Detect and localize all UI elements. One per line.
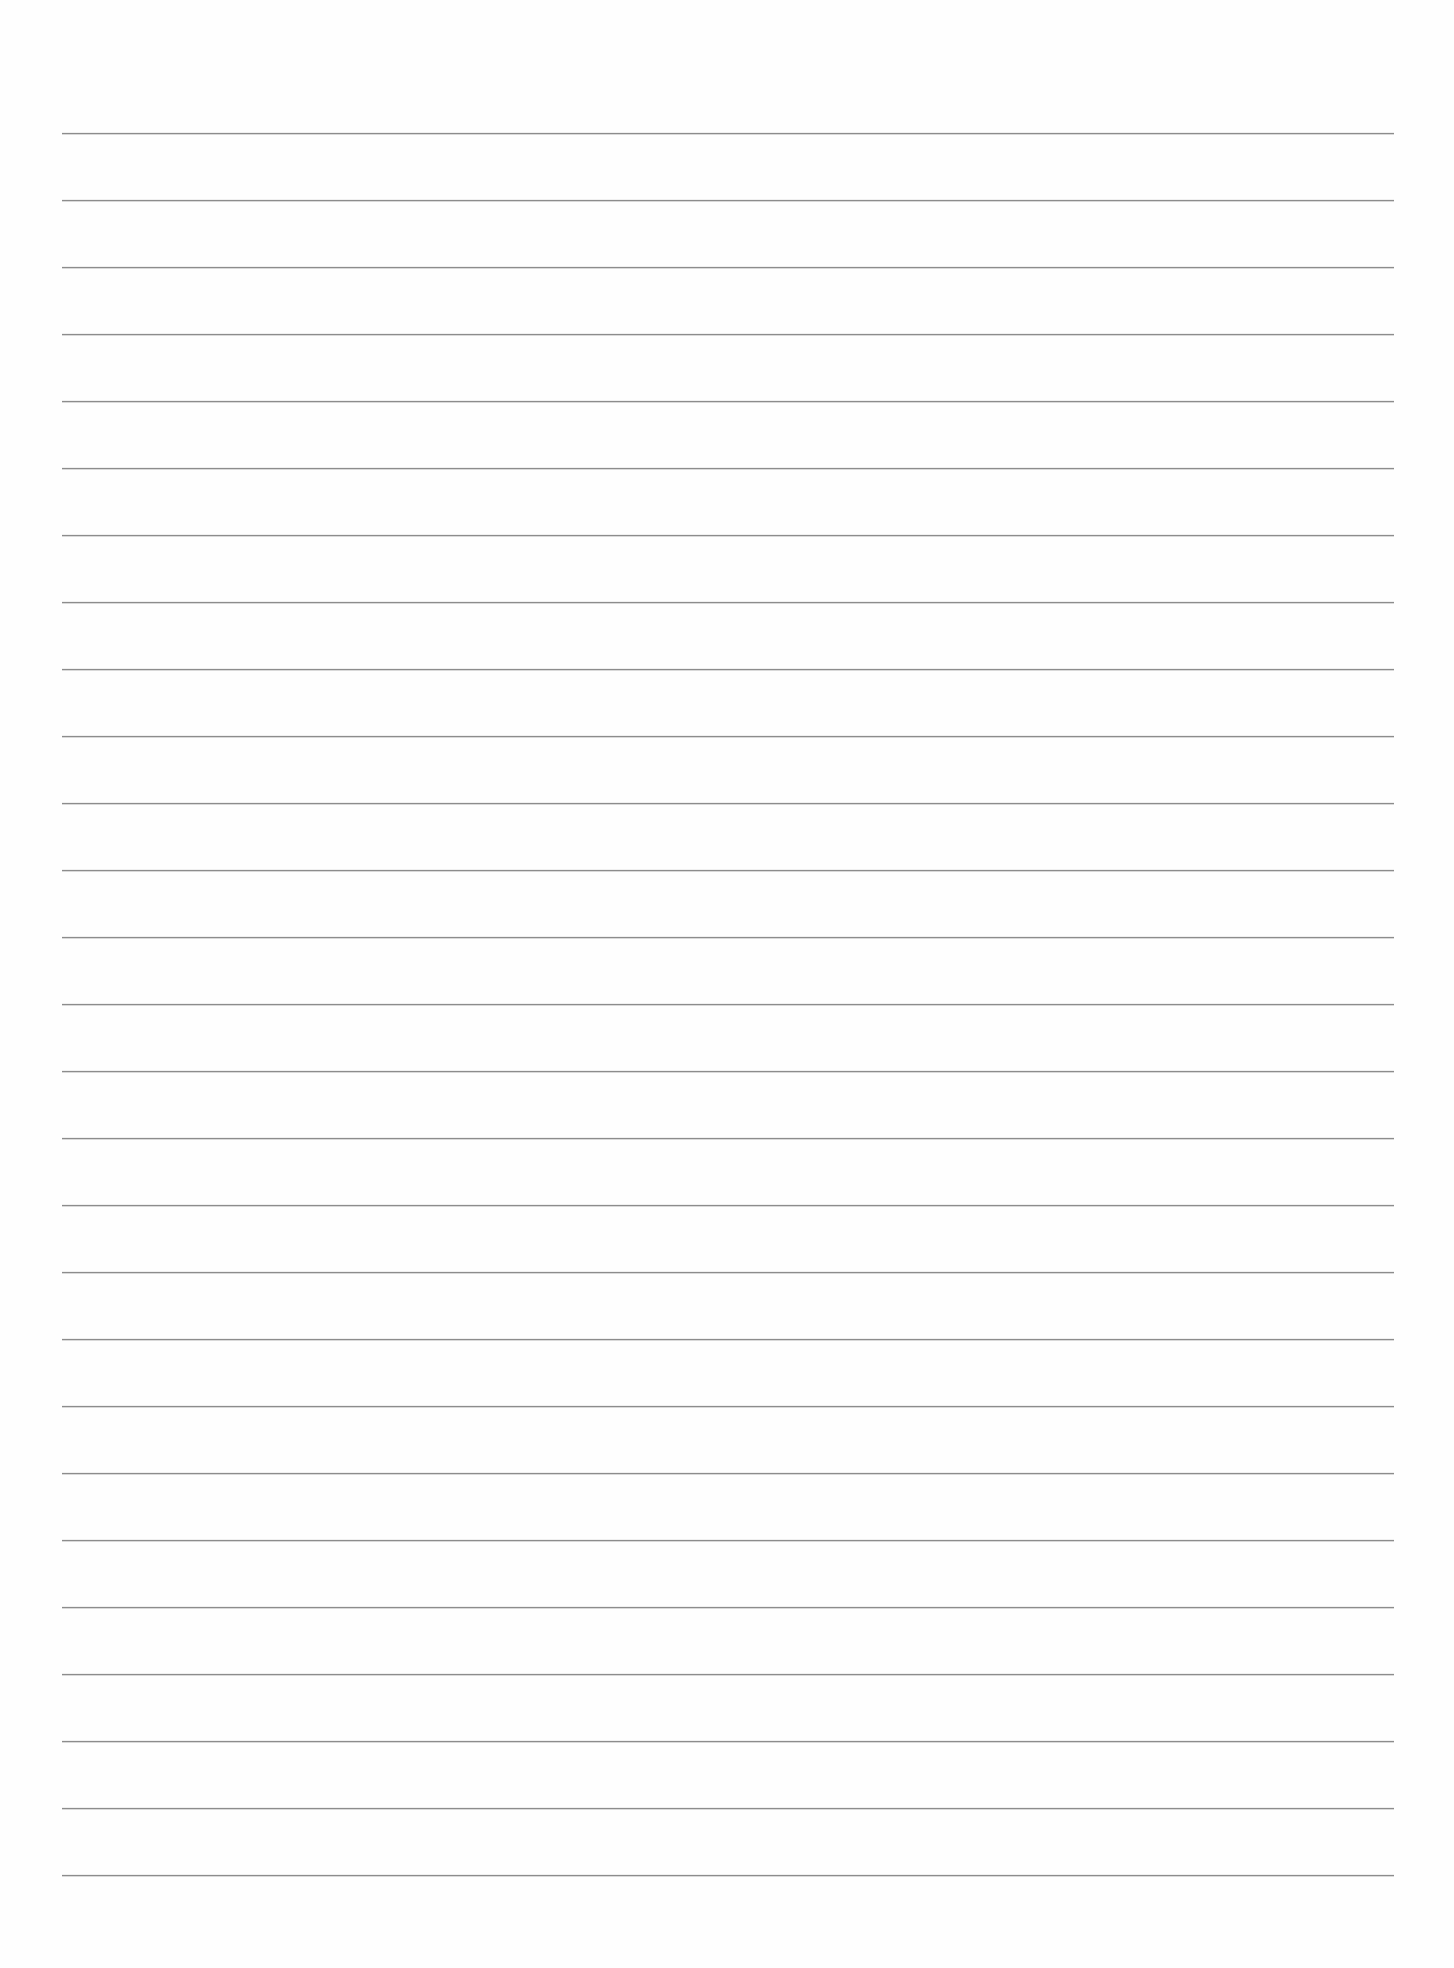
ruled-line — [62, 602, 1394, 603]
ruled-line — [62, 1406, 1394, 1407]
ruled-line — [62, 1473, 1394, 1474]
ruled-line — [62, 1272, 1394, 1273]
ruled-line — [62, 1205, 1394, 1206]
lined-paper-sheet — [0, 0, 1454, 1968]
ruled-line — [62, 1875, 1394, 1876]
ruled-line — [62, 1741, 1394, 1742]
ruled-line — [62, 1071, 1394, 1072]
ruled-line — [62, 468, 1394, 469]
ruled-line — [62, 334, 1394, 335]
ruled-line — [62, 1540, 1394, 1541]
ruled-line — [62, 870, 1394, 871]
ruled-line — [62, 1607, 1394, 1608]
ruled-line — [62, 1004, 1394, 1005]
ruled-line — [62, 133, 1394, 134]
ruled-line — [62, 669, 1394, 670]
ruled-line — [62, 937, 1394, 938]
ruled-line — [62, 267, 1394, 268]
ruled-line — [62, 401, 1394, 402]
ruled-line — [62, 1339, 1394, 1340]
ruled-line — [62, 1674, 1394, 1675]
ruled-line — [62, 1138, 1394, 1139]
ruled-line — [62, 535, 1394, 536]
ruled-line — [62, 736, 1394, 737]
ruled-line — [62, 803, 1394, 804]
ruled-line — [62, 1808, 1394, 1809]
ruled-line — [62, 200, 1394, 201]
